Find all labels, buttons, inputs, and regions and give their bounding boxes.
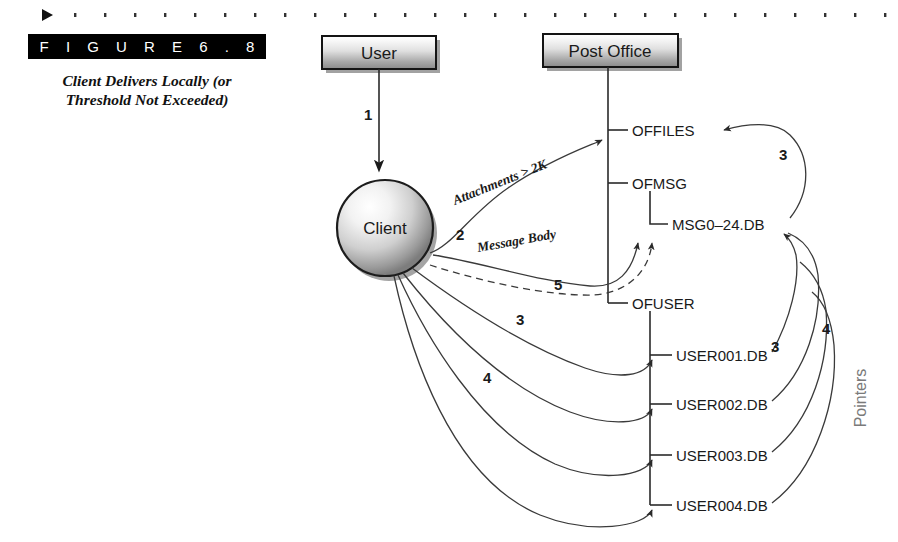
node-user-label: User	[361, 44, 397, 63]
node-post-office-label: Post Office	[569, 42, 652, 61]
node-user004-label: USER004.DB	[676, 497, 768, 514]
node-ofuser-label: OFUSER	[632, 295, 695, 312]
triangle-right-icon	[42, 9, 53, 21]
step-label-2: 2	[456, 226, 464, 243]
step-label-4-pointers: 4	[822, 320, 831, 337]
node-msgdb-label: MSG0–24.DB	[672, 216, 765, 233]
edge-client-to-user002	[403, 273, 652, 422]
pointers-label: Pointers	[852, 369, 869, 428]
figure-banner-label: F I G U R E 6 . 8	[33, 38, 261, 55]
step-label-4-client: 4	[483, 369, 492, 386]
figure-caption-text: Client Delivers Locally (or Threshold No…	[28, 71, 266, 109]
node-ofmsg-label: OFMSG	[632, 175, 687, 192]
top-rule	[42, 9, 886, 21]
step-label-3-msgdb: 3	[771, 338, 779, 355]
edge-label-attachments: Attachments > 2K	[450, 156, 550, 208]
step-label-3-offiles: 3	[779, 146, 787, 163]
edge-dashed-step5	[430, 243, 652, 295]
figure-caption-block: F I G U R E 6 . 8 Client Delivers Locall…	[28, 34, 266, 109]
top-rule-dots	[74, 13, 886, 17]
node-offiles-label: OFFILES	[632, 122, 695, 139]
edge-user001-to-msgdb	[772, 234, 797, 352]
edge-pointers-bundle	[772, 233, 834, 503]
node-user002-label: USER002.DB	[676, 396, 768, 413]
edge-label-message-body: Message Body	[475, 226, 558, 255]
step-label-5: 5	[554, 276, 562, 293]
step-label-3-client: 3	[516, 311, 524, 328]
node-client-label: Client	[363, 219, 407, 238]
edge-client-to-user001	[412, 268, 652, 375]
figure-banner: F I G U R E 6 . 8	[28, 34, 266, 59]
figure-root: User Post Office	[0, 0, 898, 542]
step-label-1: 1	[364, 106, 372, 123]
node-user003-label: USER003.DB	[676, 447, 768, 464]
node-user001-label: USER001.DB	[676, 347, 768, 364]
edge-text-labels: Attachments > 2K Message Body	[450, 156, 559, 255]
annotation-pointers: Pointers	[852, 369, 869, 428]
edge-msgdb-to-offiles	[724, 125, 806, 218]
node-client-sphere: Client	[337, 180, 437, 281]
node-post-office-box: Post Office	[543, 34, 682, 71]
node-user-box: User	[322, 36, 440, 73]
